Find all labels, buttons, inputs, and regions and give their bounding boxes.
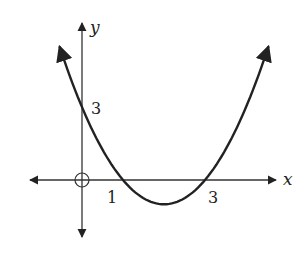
y-axis-label: y bbox=[89, 17, 100, 37]
tick-label-x3: 3 bbox=[208, 188, 218, 207]
tick-label-y3: 3 bbox=[91, 99, 101, 118]
parabola-graph: y x 1 3 3 bbox=[0, 0, 300, 255]
tick-label-x1: 1 bbox=[107, 188, 117, 207]
x-axis-label: x bbox=[283, 169, 293, 189]
